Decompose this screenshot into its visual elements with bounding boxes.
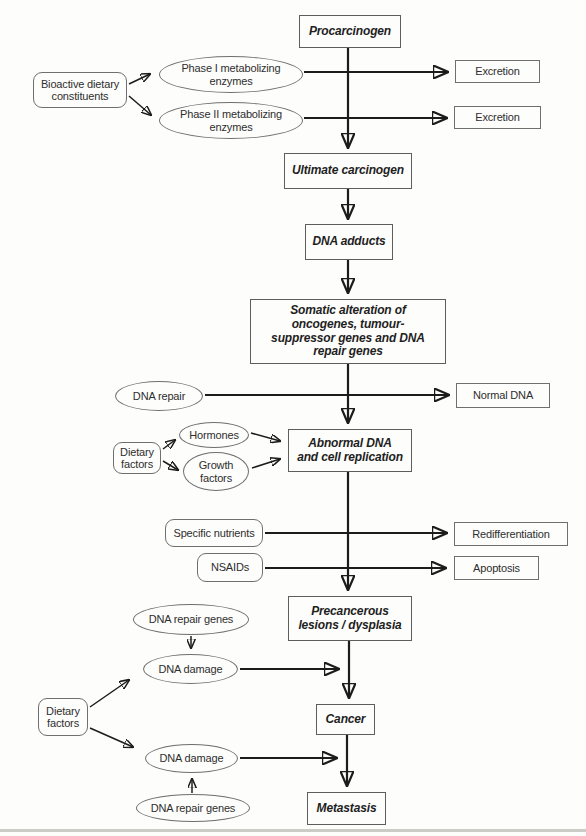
node-phase1-enzymes-label: Phase I metabolizing enzymes: [175, 62, 287, 87]
node-dna-repair-genes-2-label: DNA repair genes: [151, 802, 235, 814]
arrow-dietary2-to-damage1: [90, 680, 129, 707]
node-bioactive-dietary-constituents-label: Bioactive dietary constituents: [37, 78, 123, 103]
node-dna-repair-genes-1-label: DNA repair genes: [149, 613, 233, 625]
carcinogenesis-flowchart: Procarcinogen Bioactive dietary constitu…: [0, 0, 586, 836]
node-abnormal-dna: Abnormal DNA and cell replication: [288, 429, 412, 472]
node-hormones: Hormones: [179, 422, 249, 448]
node-dietary-factors-2-label: Dietary factors: [43, 705, 83, 730]
node-metastasis-label: Metastasis: [317, 802, 377, 816]
node-metastasis: Metastasis: [307, 792, 386, 825]
arrow-bioactive-to-phase2: [129, 96, 151, 115]
node-dna-repair-genes-1: DNA repair genes: [133, 604, 249, 635]
node-phase1-enzymes: Phase I metabolizing enzymes: [159, 56, 303, 93]
node-ultimate-carcinogen: Ultimate carcinogen: [284, 153, 412, 189]
node-dietary-factors-2: Dietary factors: [38, 698, 88, 736]
node-specific-nutrients-label: Specific nutrients: [173, 527, 254, 539]
node-nsaids-label: NSAIDs: [211, 561, 249, 573]
node-excretion-1-label: Excretion: [475, 65, 520, 77]
arrow-dietary1-to-hormones: [163, 440, 175, 449]
node-dna-repair-label: DNA repair: [133, 390, 185, 402]
node-somatic-alteration: Somatic alteration of oncogenes, tumour-…: [250, 299, 446, 364]
arrow-dietary2-to-damage2: [90, 728, 133, 747]
node-procarcinogen-label: Procarcinogen: [309, 25, 391, 39]
node-dna-damage-2-label: DNA damage: [160, 752, 224, 764]
node-bioactive-dietary-constituents: Bioactive dietary constituents: [33, 72, 127, 108]
node-phase2-enzymes-label: Phase II metabolizing enzymes: [175, 108, 287, 133]
node-growth-factors-label: Growth factors: [194, 459, 238, 484]
node-cancer: Cancer: [316, 704, 375, 735]
node-apoptosis-label: Apoptosis: [473, 562, 520, 574]
node-normal-dna: Normal DNA: [456, 383, 550, 408]
node-nsaids: NSAIDs: [197, 553, 263, 582]
node-excretion-2: Excretion: [454, 106, 541, 129]
node-precancerous-lesions: Precancerous lesions / dysplasia: [288, 596, 412, 641]
node-precancerous-lesions-label: Precancerous lesions / dysplasia: [298, 605, 402, 632]
node-dna-adducts-label: DNA adducts: [312, 235, 385, 249]
node-growth-factors: Growth factors: [183, 452, 249, 491]
node-dna-damage-1: DNA damage: [143, 654, 238, 684]
node-abnormal-dna-label: Abnormal DNA and cell replication: [297, 437, 403, 464]
node-dietary-factors-1-label: Dietary factors: [117, 446, 157, 471]
node-redifferentiation: Redifferentiation: [454, 522, 568, 546]
node-dna-repair-genes-2: DNA repair genes: [136, 794, 250, 822]
node-apoptosis: Apoptosis: [454, 556, 539, 580]
node-excretion-2-label: Excretion: [475, 111, 520, 123]
node-normal-dna-label: Normal DNA: [473, 389, 533, 401]
arrow-dietary1-to-growth-factors: [163, 461, 178, 470]
node-dna-repair: DNA repair: [115, 381, 203, 411]
node-excretion-1: Excretion: [455, 60, 540, 83]
node-ultimate-carcinogen-label: Ultimate carcinogen: [292, 164, 404, 178]
node-procarcinogen: Procarcinogen: [299, 15, 401, 48]
node-dna-damage-2: DNA damage: [145, 744, 238, 773]
node-cancer-label: Cancer: [326, 713, 366, 727]
node-dna-adducts: DNA adducts: [305, 224, 393, 260]
node-phase2-enzymes: Phase II metabolizing enzymes: [159, 102, 303, 139]
arrow-growth-factors-to-abnormal: [252, 459, 280, 468]
node-dna-damage-1-label: DNA damage: [159, 663, 223, 675]
arrow-hormones-to-abnormal: [251, 433, 280, 441]
arrow-bioactive-to-phase1: [129, 74, 150, 84]
node-specific-nutrients: Specific nutrients: [165, 519, 263, 547]
node-somatic-alteration-label: Somatic alteration of oncogenes, tumour-…: [260, 304, 436, 358]
node-redifferentiation-label: Redifferentiation: [472, 528, 549, 540]
node-dietary-factors-1: Dietary factors: [113, 442, 161, 474]
node-hormones-label: Hormones: [189, 429, 239, 441]
